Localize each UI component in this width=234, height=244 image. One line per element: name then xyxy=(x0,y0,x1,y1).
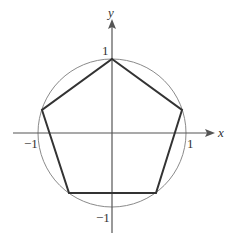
y-tick-1: 1 xyxy=(102,43,109,58)
diagram-canvas: x y −1 1 1 −1 xyxy=(0,0,234,244)
x-tick-1: 1 xyxy=(187,136,194,151)
x-tick-neg1: −1 xyxy=(24,136,38,151)
x-axis-label: x xyxy=(217,125,224,140)
y-tick-neg1: −1 xyxy=(96,210,110,225)
y-axis-label: y xyxy=(106,5,114,20)
